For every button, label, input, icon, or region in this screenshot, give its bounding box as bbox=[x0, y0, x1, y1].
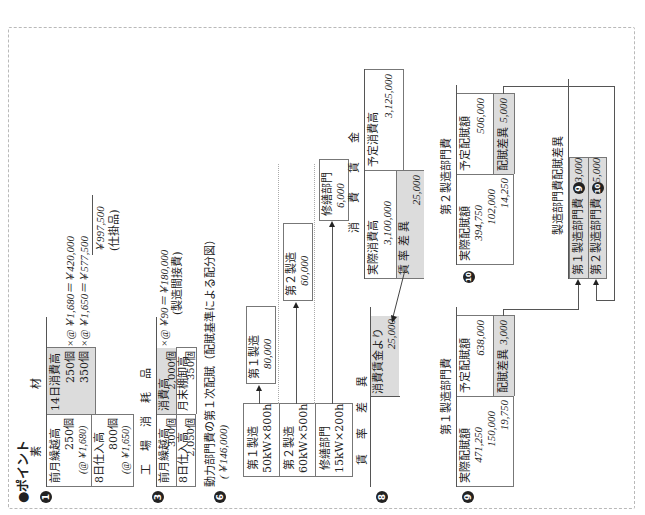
s9-variance-amount: 3,000 bbox=[497, 320, 510, 345]
s6-result-dept-2: 修繕部門 bbox=[321, 172, 334, 216]
s9-variance-label: 配賦差異 bbox=[497, 349, 510, 393]
s3-debit: 前月繰越高 300個 8日仕入高 2,050個 bbox=[157, 414, 196, 487]
s1-calc-0: ×@￥1,680＝￥420,000 bbox=[64, 236, 77, 347]
s8-variance-amount: 25,000 bbox=[410, 175, 423, 205]
s9-connector-h0 bbox=[503, 309, 504, 316]
s6-result-amount-2: 6,000 bbox=[334, 183, 347, 208]
s1-debit: 前月繰越高 250個 (@￥1,680) 8日仕入高 800個 (@￥1,650… bbox=[47, 414, 134, 487]
s1-total: ￥997,500 bbox=[94, 206, 107, 253]
s3-credit-qty-1: 350個 bbox=[185, 351, 197, 380]
s8-wages-debit: 実際消費高 3,100,000 賃 率 差 異 25,000 bbox=[365, 170, 424, 279]
s10-planned-label: 予定配賦額 bbox=[459, 116, 472, 171]
s9-variance-cell: 配賦差異 3,000 bbox=[493, 315, 515, 396]
section-9-marker: 9 bbox=[456, 491, 475, 503]
s6-base-dept-0: 第１製造 bbox=[247, 426, 260, 470]
s10-connector-v3 bbox=[596, 300, 614, 301]
s8-rv-credit: 消費賃金より 25,000 bbox=[371, 316, 399, 396]
s10-title: 第２製造部門費 bbox=[440, 138, 453, 215]
s6-base-dept-1: 第２製造 bbox=[283, 426, 296, 470]
s10-debit: 実際配賦額 394,750 102,000 14,250 bbox=[457, 174, 514, 265]
s9-title: 第１製造部門費 bbox=[440, 358, 453, 435]
s10-variance-label: 配賦差異 bbox=[497, 127, 510, 171]
summary-debit: 第１製造部門費 93,000 第２製造部門費 105,000 bbox=[569, 157, 607, 279]
s8-actual-amount: 3,100,000 bbox=[381, 201, 394, 245]
s10-actual-value-2: 14,250 bbox=[498, 178, 511, 208]
s9-credit: 予定配賦額 638,000 bbox=[457, 315, 493, 396]
s1-total-rule bbox=[92, 195, 93, 255]
s6-result-dept-0: 第１製造 bbox=[248, 335, 261, 379]
s1-credit-row-1: 350個 bbox=[78, 351, 91, 383]
s10-actual-label: 実際配賦額 bbox=[459, 206, 472, 261]
s1-debit-label-1: 8日仕入高 bbox=[93, 432, 106, 483]
summary-divider bbox=[588, 158, 589, 278]
s1-debit-price-1: (@￥1,650) bbox=[120, 426, 132, 474]
s6-arrow-1 bbox=[256, 385, 262, 391]
s3-credit-consumed: 消費高 2,000個 bbox=[157, 348, 176, 414]
s9-planned-label: 予定配賦額 bbox=[459, 338, 472, 393]
s10-variance-amount: 5,000 bbox=[497, 98, 510, 123]
s10-connector-arrow bbox=[593, 279, 599, 285]
s8-rv-entry: 消費賃金より bbox=[372, 328, 385, 394]
s10-actual-value-1: 102,000 bbox=[485, 189, 498, 225]
s6-base-divider-0 bbox=[279, 404, 280, 476]
summary-title: 製造部門費配賦差異 bbox=[552, 136, 565, 235]
s10-connector-h2 bbox=[596, 284, 597, 301]
s8-transfer-arrow bbox=[390, 265, 410, 325]
s9-planned-amount: 638,000 bbox=[474, 320, 487, 356]
s9-connector-h1 bbox=[578, 284, 579, 310]
s8-planned-amount: 3,125,000 bbox=[382, 74, 395, 118]
s10-connector-h0 bbox=[503, 86, 504, 94]
s8-actual-label: 実際消費高 bbox=[367, 220, 380, 275]
section-3-marker: 3 bbox=[146, 491, 165, 503]
s8-rate-variance-title: 賃 率 差 異 bbox=[356, 374, 369, 465]
page-heading: ●ポイント bbox=[12, 440, 31, 503]
s10-actual-value-0: 394,750 bbox=[472, 205, 485, 241]
s1-debit-price-0: (@￥1,680) bbox=[77, 426, 89, 474]
s3-calc-note: (製造間接費) bbox=[171, 251, 184, 315]
s8-rv-t-center bbox=[370, 396, 400, 397]
s6-result-3: 修繕部門 6,000 bbox=[319, 159, 349, 221]
s6-line-3 bbox=[332, 226, 333, 404]
s1-calc-1: ×@￥1,650＝￥577,500 bbox=[78, 236, 91, 347]
s3-credit-ending: 月末棚卸高 350個 bbox=[176, 347, 197, 414]
s3-debit-qty-1: 2,050個 bbox=[185, 418, 197, 457]
s6-base-basis-1: 60kW×500h bbox=[297, 404, 310, 473]
s1-debit-qty-1: 800個 bbox=[107, 418, 120, 450]
s9-connector-v bbox=[503, 309, 578, 310]
section-10-marker: 10 bbox=[456, 271, 475, 283]
s3-calc: ×@￥90＝￥180,000 bbox=[158, 250, 171, 347]
s1-credit-label: 14日消費高 bbox=[49, 353, 62, 411]
s1-title-right: 材 bbox=[30, 378, 43, 389]
s1-debit-qty-0: 250個 bbox=[63, 418, 76, 450]
s6-guide-0 bbox=[278, 164, 280, 404]
s6-result-amount-0: 80,000 bbox=[261, 339, 274, 369]
rotated-document-frame: ●ポイント 1 素 材 前月繰越高 250個 (@￥1,680) 8日仕入高 8… bbox=[0, 0, 645, 515]
s6-line-2 bbox=[296, 307, 297, 404]
section-6-marker: 6 bbox=[208, 491, 227, 503]
s6-base-basis-2: 15kW×200h bbox=[333, 404, 346, 473]
s9-connector-arrow bbox=[575, 279, 581, 285]
summary-row-1: 第２製造部門費 105,000 bbox=[590, 158, 604, 275]
s9-actual-label: 実際配賦額 bbox=[459, 428, 472, 483]
s1-total-note: (仕掛品) bbox=[108, 209, 121, 251]
s10-connector-h1 bbox=[614, 86, 615, 301]
s1-title-left: 素 bbox=[30, 446, 43, 457]
s6-guide-1 bbox=[314, 164, 316, 404]
summary-row-0: 第１製造部門費 93,000 bbox=[572, 158, 585, 275]
s6-subtitle: (￥146,000) bbox=[217, 425, 230, 479]
s3-title: 工 場 消 耗 品 bbox=[140, 367, 153, 475]
s9-debit: 実際配賦額 471,250 150,000 19,750 bbox=[457, 396, 514, 487]
s6-result-2: 第２製造 60,000 bbox=[283, 223, 313, 301]
s6-bases-box: 第１製造 50kW×800h 第２製造 60kW×500h 修繕部門 15kW×… bbox=[243, 403, 353, 477]
s10-variance-cell: 配賦差異 5,000 bbox=[493, 93, 515, 174]
s6-title: 動力部門費の第１次配賦（配賦基準による配分図） bbox=[204, 234, 217, 487]
s9-actual-value-0: 471,250 bbox=[472, 427, 485, 463]
s6-base-basis-0: 50kW×800h bbox=[261, 404, 274, 473]
s10-planned-amount: 506,000 bbox=[474, 98, 487, 134]
s6-result-1: 第１製造 80,000 bbox=[246, 306, 276, 384]
s6-arrow-3 bbox=[329, 221, 335, 227]
s8-variance-cell: 賃 率 差 異 25,000 bbox=[396, 171, 424, 278]
s1-debit-divider bbox=[91, 415, 92, 486]
s6-line-1 bbox=[259, 390, 260, 404]
s1-credit: 14日消費高 250個 350個 bbox=[47, 347, 96, 414]
